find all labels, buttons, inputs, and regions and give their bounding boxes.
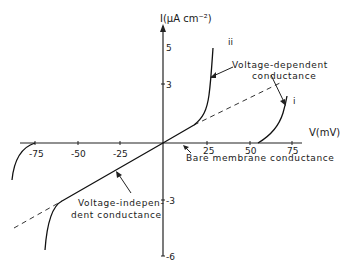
y-tick-label: 3 — [166, 80, 172, 90]
x-axis-label: V(mV) — [309, 127, 340, 138]
x-tick-label: -25 — [113, 149, 128, 159]
y-axis-arrow-icon — [160, 24, 166, 32]
annotation-voltage-dependent-2: conductance — [252, 71, 316, 81]
bare-membrane-dashed-line — [14, 201, 62, 228]
x-tick-label: -50 — [71, 149, 86, 159]
annotation-voltage-independent-1: Voltage-indepen- — [78, 198, 164, 208]
curve-label-ii: ii — [228, 37, 233, 47]
iv-diagram: I(μA cm⁻²) V(mV) -75 -50 -25 25 50 75 5 … — [0, 0, 349, 267]
annotation-voltage-dependent-1: Voltage-dependent — [232, 60, 328, 70]
y-tick-label: -6 — [166, 252, 175, 262]
curve-ii — [62, 48, 213, 201]
annotation-bare-membrane: Bare membrane conductance — [186, 153, 334, 163]
arrowhead-icon — [183, 145, 189, 150]
y-tick-label: 5 — [166, 43, 172, 53]
arrowhead-icon — [280, 99, 286, 106]
arrowhead-icon — [116, 171, 122, 178]
x-tick-label: -75 — [29, 149, 44, 159]
curve-label-i: i — [293, 96, 296, 106]
y-tick-label: -3 — [166, 196, 175, 206]
y-axis-label: I(μA cm⁻²) — [160, 13, 212, 24]
annotation-voltage-independent-2: dent conductance — [71, 210, 162, 220]
curve-negative-branch — [45, 201, 62, 250]
